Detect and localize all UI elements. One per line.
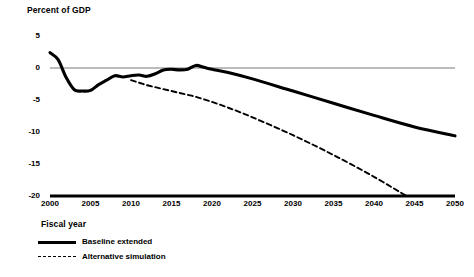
- x-tick-label: 2040: [354, 199, 394, 208]
- x-tick-label: 2020: [192, 199, 232, 208]
- x-tick-label: 2035: [314, 199, 354, 208]
- y-tick-label: 0: [14, 63, 40, 72]
- series-line-alternative-simulation: [131, 80, 406, 196]
- legend-swatch-baseline-extended: [38, 241, 76, 244]
- legend-swatch-alternative-simulation: [38, 256, 76, 257]
- x-tick-label: 2005: [71, 199, 111, 208]
- y-tick-label: -5: [14, 95, 40, 104]
- x-axis-title: Fiscal year: [41, 219, 86, 229]
- y-tick-label: -15: [14, 159, 40, 168]
- x-tick-label: 2000: [30, 199, 70, 208]
- plot-area: [0, 0, 474, 277]
- x-tick-label: 2045: [395, 199, 435, 208]
- chart-container: Percent of GDP Fiscal year 50-5-10-15-20…: [0, 0, 474, 277]
- series-line-baseline-extended: [50, 53, 455, 136]
- x-tick-label: 2025: [233, 199, 273, 208]
- x-tick-label: 2010: [111, 199, 151, 208]
- x-tick-label: 2015: [152, 199, 192, 208]
- y-tick-label: 5: [14, 31, 40, 40]
- x-tick-label: 2030: [273, 199, 313, 208]
- legend-label-baseline-extended: Baseline extended: [82, 237, 152, 246]
- y-tick-label: -10: [14, 127, 40, 136]
- legend-label-alternative-simulation: Alternative simulation: [82, 252, 166, 261]
- x-tick-label: 2050: [435, 199, 474, 208]
